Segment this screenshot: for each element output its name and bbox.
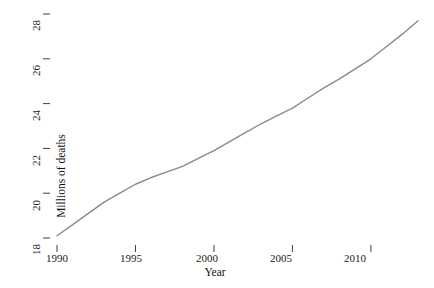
y-axis-tick-marks bbox=[43, 14, 50, 238]
data-line-series-0 bbox=[57, 21, 418, 236]
y-tick-label-26: 26 bbox=[31, 60, 42, 82]
y-tick-label-28: 28 bbox=[31, 15, 42, 37]
x-tick-label-1990: 1990 bbox=[29, 253, 85, 264]
y-tick-label-24: 24 bbox=[31, 105, 42, 127]
y-tick-label-20: 20 bbox=[31, 195, 42, 217]
x-tick-label-2000: 2000 bbox=[179, 253, 235, 264]
chart-figure: 28 26 24 22 20 18 1990 1995 2000 2005 20… bbox=[0, 0, 434, 288]
x-axis-title: Year bbox=[180, 266, 250, 278]
y-tick-label-22: 22 bbox=[31, 150, 42, 172]
y-axis-title: Millions of deaths bbox=[55, 126, 67, 226]
x-tick-label-2005: 2005 bbox=[253, 253, 309, 264]
x-axis-tick-marks bbox=[57, 245, 371, 252]
x-tick-label-1995: 1995 bbox=[103, 253, 159, 264]
x-tick-label-2010: 2010 bbox=[327, 253, 383, 264]
